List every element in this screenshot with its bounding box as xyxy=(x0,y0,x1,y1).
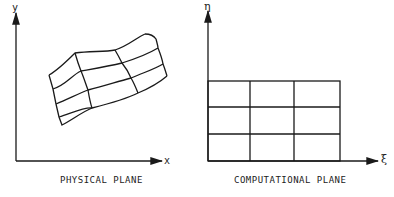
physical-grid xyxy=(49,34,167,125)
physical-plane-caption: PHYSICAL PLANE xyxy=(60,175,143,185)
computational-xi-axis-label: ξ xyxy=(381,153,388,166)
physical-axes xyxy=(16,13,162,161)
physical-y-axis-label: y xyxy=(12,2,19,13)
computational-plane-caption: COMPUTATIONAL PLANE xyxy=(234,175,346,185)
physical-x-axis-label: x xyxy=(164,155,171,166)
computational-grid xyxy=(208,81,340,161)
computational-eta-axis-label: η xyxy=(204,0,211,13)
diagram-canvas xyxy=(0,0,394,197)
computational-axes xyxy=(208,11,378,161)
